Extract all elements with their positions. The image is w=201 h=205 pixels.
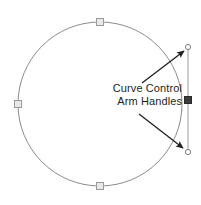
node-top[interactable] [97,19,104,26]
control-handle-upper[interactable] [185,44,190,49]
annotation-line-2: Arm Handles [62,95,182,108]
node-bottom[interactable] [97,183,104,190]
node-right-selected[interactable] [185,97,192,104]
annotation-label: Curve Control Arm Handles [62,82,182,108]
node-left[interactable] [15,101,22,108]
diagram-canvas: Curve Control Arm Handles [0,0,201,205]
control-handle-lower[interactable] [185,149,190,154]
leader-arrow-lower [139,114,183,148]
annotation-line-1: Curve Control [62,82,182,95]
